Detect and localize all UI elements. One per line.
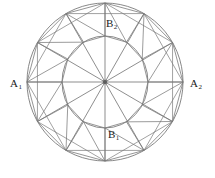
label-a2-text: A xyxy=(190,77,198,89)
blade-diagonal xyxy=(66,105,68,150)
blade-outer-chord xyxy=(105,150,144,161)
blade-diagonal xyxy=(27,59,68,82)
blade-diagonal xyxy=(148,43,173,83)
radial-spoke xyxy=(105,82,144,150)
label-b2-text: B xyxy=(106,17,114,29)
radial-spoke xyxy=(105,43,173,83)
blade-outer-chord xyxy=(27,82,37,122)
radial-spoke xyxy=(66,14,105,82)
blade-diagonal xyxy=(142,14,144,59)
blade-outer-chord xyxy=(27,43,37,83)
label-b1-subscript: 1 xyxy=(116,134,120,142)
figure-container: A1 A2 B2 B1 xyxy=(0,0,215,178)
blade-diagonal xyxy=(66,14,105,36)
blade-inner-chord xyxy=(68,105,84,122)
radial-spoke xyxy=(37,82,105,122)
blade-outer-chord xyxy=(66,3,105,14)
label-b2-subscript: 2 xyxy=(114,23,118,31)
label-a1-subscript: 1 xyxy=(18,83,22,91)
label-b2: B2 xyxy=(106,18,117,29)
blade-outer-chord xyxy=(105,3,144,14)
blade-inner-chord xyxy=(127,42,143,59)
center-point-group xyxy=(103,80,107,84)
blade-outer-chord xyxy=(66,150,105,161)
blade-outer-chord xyxy=(173,43,183,83)
center-point xyxy=(103,80,107,84)
blade-diagonal xyxy=(142,82,183,105)
label-a2: A2 xyxy=(190,78,202,89)
blade-outer-chord xyxy=(173,82,183,122)
label-b1: B1 xyxy=(108,129,119,140)
radial-spoke xyxy=(66,82,105,150)
label-b1-text: B xyxy=(108,128,116,140)
blade-inner-chord xyxy=(127,105,143,122)
label-a1-text: A xyxy=(10,77,18,89)
label-a1: A1 xyxy=(10,78,22,89)
radial-spoke xyxy=(105,82,173,122)
radial-spoke xyxy=(37,43,105,83)
label-a2-subscript: 2 xyxy=(198,83,202,91)
blade-inner-chord xyxy=(68,42,84,59)
blade-diagonal xyxy=(37,82,62,122)
